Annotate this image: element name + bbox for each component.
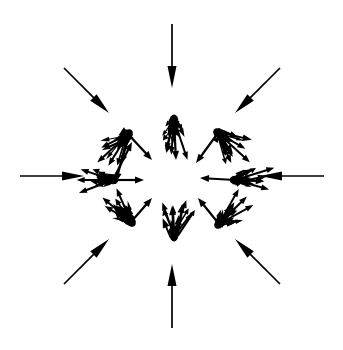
cluster-hub [230, 176, 241, 184]
figure-root [0, 0, 343, 350]
vector-field-plot [0, 0, 343, 350]
cluster-hub [170, 115, 178, 126]
cluster-hub [170, 231, 178, 242]
cluster-hub [108, 176, 119, 184]
